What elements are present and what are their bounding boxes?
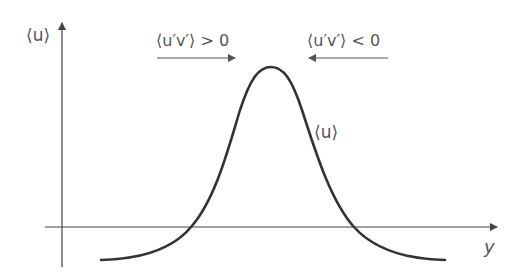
velocity-profile-curve <box>101 67 445 260</box>
y-axis-label: ⟨u⟩ <box>26 27 50 44</box>
diagram-canvas: ⟨u⟩ ⟨u′v′⟩ > 0 ⟨u′v′⟩ < 0 ⟨u⟩ y <box>0 0 517 278</box>
left-flux-label: ⟨u′v′⟩ > 0 <box>156 33 229 49</box>
diagram-graphics <box>0 0 517 278</box>
curve-label: ⟨u⟩ <box>314 124 338 141</box>
right-flux-label: ⟨u′v′⟩ < 0 <box>307 33 380 49</box>
x-axis-label: y <box>484 238 495 256</box>
